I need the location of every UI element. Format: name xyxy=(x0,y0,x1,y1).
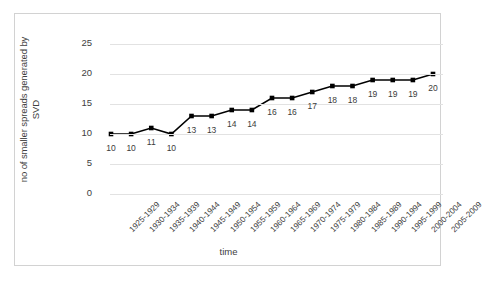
gridline xyxy=(110,194,443,195)
data-point-label: 14 xyxy=(241,119,263,129)
y-axis-tick-label: 5 xyxy=(52,157,92,168)
data-point-marker xyxy=(370,78,375,83)
data-point-label: 20 xyxy=(422,83,444,93)
data-point-label: 10 xyxy=(120,143,142,153)
data-point-label: 14 xyxy=(221,119,243,129)
data-point-label: 16 xyxy=(261,107,283,117)
data-point-label: 10 xyxy=(100,143,122,153)
y-axis-title-line-1: no of smaller spreads generated by xyxy=(18,22,30,198)
gridline xyxy=(110,164,443,165)
y-axis-tick-label: 25 xyxy=(52,37,92,48)
data-point-label: 16 xyxy=(281,107,303,117)
y-axis-title: no of smaller spreads generated by SVD xyxy=(18,22,41,198)
plot-area: 0510152025101011101313141416161718181919… xyxy=(97,31,443,198)
data-point-marker xyxy=(209,114,214,119)
gridline xyxy=(110,44,443,45)
gridline xyxy=(110,134,443,135)
data-point-marker xyxy=(290,96,295,101)
data-point-marker xyxy=(270,96,275,101)
x-axis-title: time xyxy=(15,246,442,257)
y-axis-tick-label: 0 xyxy=(52,187,92,198)
data-point-label: 19 xyxy=(382,89,404,99)
y-axis-tick-label: 15 xyxy=(52,97,92,108)
data-point-marker xyxy=(149,126,154,131)
data-point-label: 13 xyxy=(201,125,223,135)
data-point-label: 11 xyxy=(140,137,162,147)
chart-frame: no of smaller spreads generated by SVD 0… xyxy=(14,13,441,266)
data-point-marker xyxy=(229,108,234,113)
data-point-label: 18 xyxy=(342,95,364,105)
data-point-label: 19 xyxy=(362,89,384,99)
y-axis-title-line-2: SVD xyxy=(29,22,41,198)
data-point-marker xyxy=(330,84,335,89)
data-point-marker xyxy=(189,114,194,119)
data-point-marker xyxy=(390,78,395,83)
data-point-marker xyxy=(250,108,255,113)
data-point-marker xyxy=(350,84,355,89)
data-point-label: 19 xyxy=(402,89,424,99)
data-point-label: 10 xyxy=(160,143,182,153)
data-point-label: 13 xyxy=(181,125,203,135)
y-axis-tick-label: 10 xyxy=(52,127,92,138)
data-point-marker xyxy=(310,90,315,95)
data-point-label: 17 xyxy=(301,101,323,111)
data-point-marker xyxy=(411,78,416,83)
data-point-label: 18 xyxy=(321,95,343,105)
gridline xyxy=(110,104,443,105)
y-axis-tick-label: 20 xyxy=(52,67,92,78)
gridline xyxy=(110,74,443,75)
